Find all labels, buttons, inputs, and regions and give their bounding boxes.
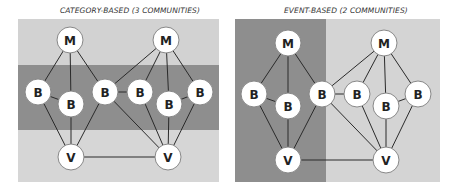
category-based-panel: MMBBBBBBVV [18,19,219,182]
node-label: B [317,88,326,102]
node-label: M [282,37,294,51]
node-b2: B [275,93,301,119]
node-label: B [413,88,422,102]
node-b1: B [241,81,267,107]
node-b5: B [373,93,399,119]
node-v1: V [58,144,84,170]
node-label: M [378,37,390,51]
node-b4: B [344,81,370,107]
node-label: B [195,86,204,100]
node-label: B [100,86,109,100]
node-label: V [283,154,293,168]
node-label: B [381,100,390,114]
node-m1: M [275,30,301,56]
node-b3: B [309,81,335,107]
node-b2: B [58,91,84,117]
node-v1: V [275,147,301,173]
node-label: V [66,151,76,165]
node-label: M [64,34,76,48]
node-b5: B [156,91,182,117]
node-label: B [283,100,292,114]
node-label: B [352,88,361,102]
node-m2: M [371,30,397,56]
node-b4: B [127,79,153,105]
node-v2: V [373,147,399,173]
node-m1: M [57,27,83,53]
node-label: V [163,151,173,165]
community-graph-diagram: MMBBBBBBVVMMBBBBBBVV [0,0,457,192]
node-label: B [66,98,75,112]
community-region [18,130,219,182]
node-b6: B [187,79,213,105]
node-label: B [249,88,258,102]
node-label: B [33,86,42,100]
node-m2: M [153,27,179,53]
event-based-panel: MMBBBBBBVV [235,19,440,182]
community-region [18,19,219,65]
node-label: B [164,98,173,112]
node-b3: B [92,79,118,105]
node-b6: B [405,81,431,107]
node-label: B [135,86,144,100]
node-v2: V [155,144,181,170]
node-b1: B [25,79,51,105]
node-label: V [381,154,391,168]
node-label: M [160,34,172,48]
